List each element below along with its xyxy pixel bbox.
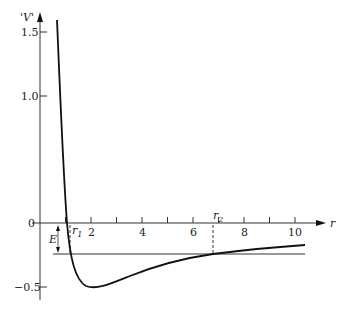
energy-arrow-down-icon <box>56 247 60 253</box>
x-tick-label-4: 4 <box>139 226 146 239</box>
potential-energy-chart: 'V' 1.5 1.0 0 −0.5 2 4 6 8 10 r E r1 r2 <box>0 0 350 310</box>
y-tick-label-1-0: 1.0 <box>21 90 39 103</box>
energy-label: E <box>48 233 57 246</box>
chart-canvas: 'V' 1.5 1.0 0 −0.5 2 4 6 8 10 r E r1 r2 <box>0 0 350 310</box>
y-tick-label-m0-5: −0.5 <box>14 281 41 294</box>
y-axis-arrow-icon <box>37 12 43 22</box>
y-axis-label: 'V' <box>20 11 34 24</box>
x-tick-label-8: 8 <box>241 226 248 239</box>
x-axis-arrow-icon <box>316 220 326 226</box>
y-tick-label-0: 0 <box>28 217 35 230</box>
x-ticks <box>66 217 296 223</box>
r2-label: r2 <box>213 209 223 224</box>
x-tick-label-2: 2 <box>88 226 95 239</box>
r1-label: r1 <box>72 224 82 239</box>
potential-curve <box>57 20 305 287</box>
x-axis-label: r <box>330 217 336 230</box>
energy-arrow-up-icon <box>56 225 60 231</box>
x-tick-label-6: 6 <box>190 226 197 239</box>
x-tick-label-10: 10 <box>288 226 302 239</box>
y-tick-label-1-5: 1.5 <box>21 26 39 39</box>
